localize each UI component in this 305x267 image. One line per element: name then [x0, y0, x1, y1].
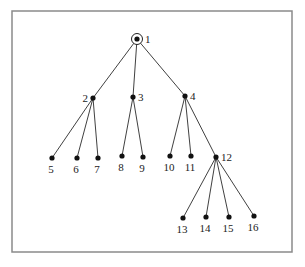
node-label: 6	[73, 163, 79, 175]
tree-node-1: 1	[132, 33, 151, 45]
node-dot-icon	[182, 93, 187, 98]
node-label: 14	[200, 222, 212, 234]
node-dot-icon	[119, 153, 124, 158]
node-dot-icon	[130, 94, 135, 99]
edge-2-7	[93, 98, 98, 158]
node-label: 11	[185, 161, 196, 173]
edge-4-10	[170, 96, 185, 156]
node-label: 12	[221, 151, 232, 163]
tree-node-11: 11	[185, 153, 196, 173]
tree-node-8: 8	[118, 153, 124, 173]
tree-edges	[52, 39, 254, 218]
tree-node-14: 14	[200, 214, 212, 234]
node-label: 10	[164, 161, 176, 173]
edge-1-4	[137, 39, 185, 96]
node-dot-icon	[226, 214, 231, 219]
tree-node-16: 16	[248, 213, 260, 233]
tree-node-5: 5	[48, 155, 54, 175]
node-label: 2	[83, 92, 89, 104]
node-dot-icon	[167, 153, 172, 158]
tree-node-9: 9	[139, 154, 145, 174]
tree-node-4: 4	[182, 90, 196, 102]
edge-4-11	[185, 96, 191, 156]
node-label: 9	[139, 162, 145, 174]
node-label: 4	[190, 90, 196, 102]
edge-1-3	[133, 39, 137, 97]
node-dot-icon	[188, 153, 193, 158]
node-dot-icon	[95, 155, 100, 160]
node-dot-icon	[90, 95, 95, 100]
tree-node-13: 13	[177, 215, 189, 235]
edge-2-6	[77, 98, 93, 158]
node-label: 1	[145, 33, 151, 45]
tree-node-12: 12	[213, 151, 232, 163]
node-dot-icon	[213, 154, 218, 159]
edge-1-2	[93, 39, 137, 98]
node-dot-icon	[134, 36, 139, 41]
diagram-frame	[12, 11, 292, 252]
node-dot-icon	[180, 215, 185, 220]
node-label: 8	[118, 161, 124, 173]
edge-3-9	[133, 97, 143, 157]
node-dot-icon	[74, 155, 79, 160]
node-label: 5	[48, 163, 54, 175]
node-label: 16	[248, 221, 260, 233]
tree-node-6: 6	[73, 155, 79, 175]
edge-12-16	[216, 157, 254, 216]
edge-4-12	[185, 96, 216, 157]
tree-node-7: 7	[94, 155, 100, 175]
tree-node-15: 15	[223, 214, 235, 234]
node-label: 3	[138, 91, 144, 103]
node-dot-icon	[203, 214, 208, 219]
tree-node-10: 10	[164, 153, 176, 173]
node-label: 7	[94, 163, 100, 175]
node-dot-icon	[251, 213, 256, 218]
edge-3-8	[122, 97, 133, 156]
node-dot-icon	[49, 155, 54, 160]
edge-2-5	[52, 98, 93, 158]
node-label: 13	[177, 223, 189, 235]
node-dot-icon	[140, 154, 145, 159]
tree-diagram: 12345678910111213141516	[0, 0, 305, 267]
edge-12-15	[216, 157, 229, 217]
node-label: 15	[223, 222, 235, 234]
tree-nodes: 12345678910111213141516	[48, 33, 259, 235]
